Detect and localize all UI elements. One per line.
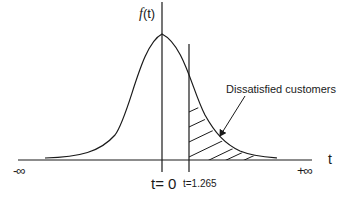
x-axis-label: t bbox=[328, 152, 332, 166]
normal-curve-diagram bbox=[0, 0, 342, 203]
threshold-label: t=1.265 bbox=[183, 179, 217, 189]
bell-curve bbox=[45, 34, 277, 158]
shaded-region-label: Dissatisfied customers bbox=[226, 84, 336, 95]
x-max-label: +∞ bbox=[297, 164, 312, 177]
x-min-label: -∞ bbox=[13, 164, 25, 177]
y-axis-label-arg: (t) bbox=[143, 6, 155, 21]
center-label: t= 0 bbox=[151, 176, 176, 191]
annotation-arrow bbox=[220, 96, 245, 136]
y-axis-label: f(t) bbox=[139, 7, 155, 21]
